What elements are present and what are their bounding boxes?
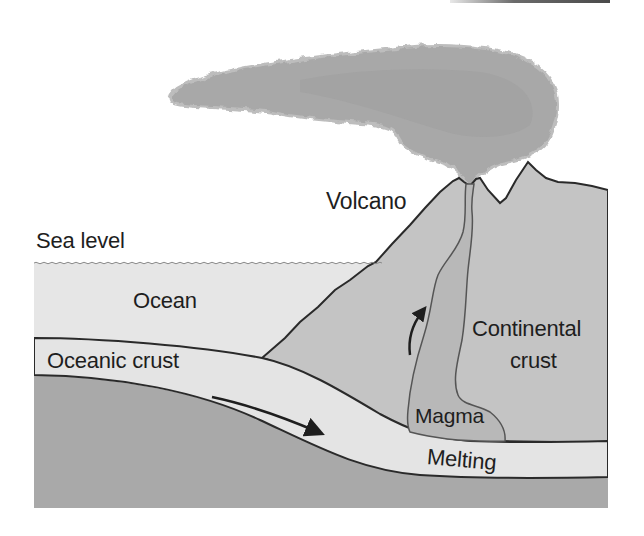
- volcano-label: Volcano: [326, 190, 406, 213]
- continental-crust-label-line2: crust: [510, 350, 557, 372]
- melting-label: Melting: [426, 446, 497, 474]
- magma-label: Magma: [415, 405, 484, 426]
- ash-cloud: [170, 46, 558, 186]
- oceanic-crust-label: Oceanic crust: [47, 350, 179, 372]
- subduction-diagram: [0, 0, 644, 536]
- sea-level-label: Sea level: [36, 230, 125, 252]
- ocean-label: Ocean: [133, 290, 197, 312]
- continental-crust-label-line1: Continental: [472, 318, 581, 340]
